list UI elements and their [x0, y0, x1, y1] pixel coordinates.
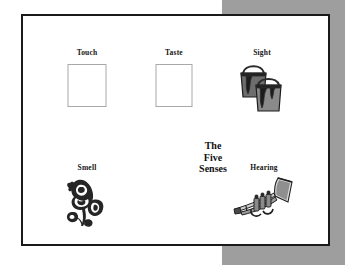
drawing-box-touch[interactable] [68, 64, 107, 107]
sense-label-touch: Touch [77, 48, 98, 57]
drawing-box-taste[interactable] [156, 64, 193, 107]
page-title-line-3: Senses [199, 163, 227, 175]
worksheet-screenshot: Touch Taste Sight [0, 0, 345, 265]
worksheet-card: Touch Taste Sight [21, 14, 330, 246]
page-title-line-1: The [199, 140, 227, 152]
page-title-line-2: Five [199, 152, 227, 164]
sense-label-hearing: Hearing [250, 163, 278, 172]
trumpet-icon [230, 176, 296, 222]
sense-label-smell: Smell [78, 163, 97, 172]
rose-icon [64, 176, 110, 228]
paint-cans-icon [236, 61, 290, 117]
worksheet-canvas: Touch Taste Sight [23, 16, 328, 244]
sense-label-taste: Taste [165, 48, 183, 57]
page-title: The Five Senses [199, 140, 227, 175]
sense-label-sight: Sight [253, 48, 271, 57]
